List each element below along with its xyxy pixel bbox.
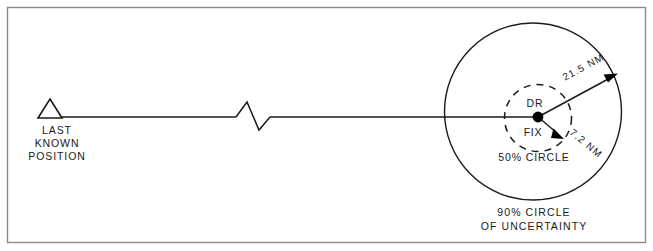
dr-label: DR (527, 97, 544, 109)
last-known-position-label-line-3: POSITION (28, 150, 85, 162)
uncertainty-circle-diagram: LAST KNOWN POSITION DR FIX 21.5 NM 7.2 N… (0, 0, 653, 251)
outer-circle-caption-line-1: 90% CIRCLE (497, 206, 570, 218)
outer-circle-caption-line-2: OF UNCERTAINTY (481, 220, 588, 232)
inner-circle-label: 50% CIRCLE (498, 151, 569, 163)
dr-fix-dot-icon (533, 112, 544, 123)
last-known-position-label-line-2: KNOWN (35, 137, 80, 149)
figure-root: LAST KNOWN POSITION DR FIX 21.5 NM 7.2 N… (0, 0, 653, 251)
last-known-position-label-line-1: LAST (42, 124, 72, 136)
fix-label: FIX (524, 126, 543, 138)
